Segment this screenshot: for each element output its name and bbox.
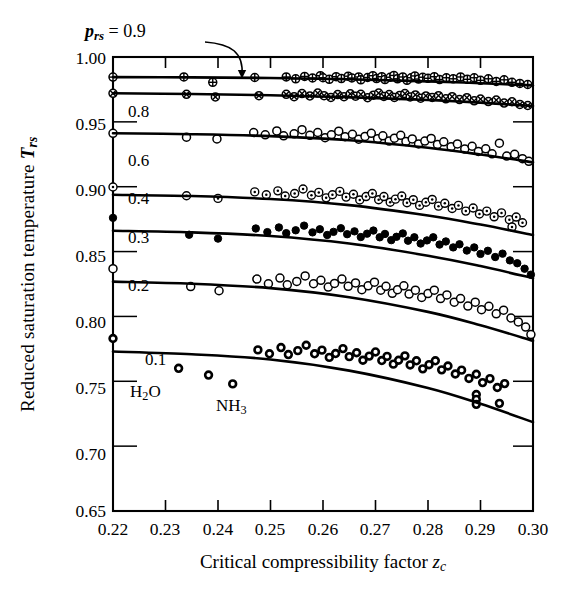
annotation-arrow [205, 42, 242, 76]
fitted-curve-0.1 [113, 351, 533, 422]
series-points-0.1 [110, 335, 508, 408]
series-points-0.2 [109, 265, 535, 339]
series-points-0.6 [109, 126, 533, 166]
series-points-0.4 [109, 183, 527, 231]
plot-area [0, 0, 576, 602]
fitted-curve-0.2 [113, 282, 533, 341]
figure-container: Reduced saturation temperature Trs Criti… [0, 0, 576, 602]
series-points-0.8 [109, 89, 532, 109]
fitted-curve-0.3 [113, 231, 533, 278]
